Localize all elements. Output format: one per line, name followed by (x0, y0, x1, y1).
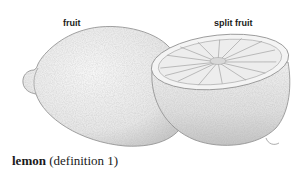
fruit-label: fruit (63, 18, 81, 28)
lemon-drawing (0, 0, 307, 150)
caption-term: lemon (12, 153, 46, 168)
caption-note: (definition 1) (49, 153, 118, 168)
split-fruit-label: split fruit (214, 18, 253, 28)
caption: lemon (definition 1) (12, 153, 118, 169)
